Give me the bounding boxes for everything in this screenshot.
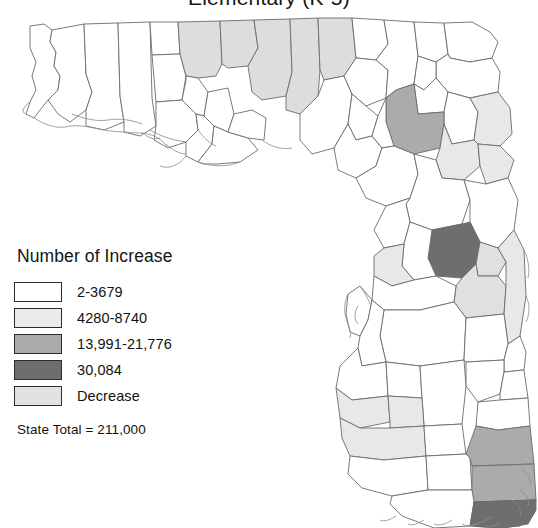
legend-item: 13,991-21,776: [14, 331, 229, 357]
legend-swatch-class-1: [14, 282, 62, 302]
page-title: Elementary (K-5): [0, 0, 538, 10]
county-osceola: [464, 314, 508, 362]
legend-item: 30,084: [14, 357, 229, 383]
county-miami-dade: [474, 500, 536, 528]
county-nassau: [444, 22, 498, 62]
county-holmes: [150, 22, 180, 55]
legend-item: Decrease: [14, 383, 229, 409]
legend-swatch-class-4: [14, 360, 62, 380]
county-glades: [424, 424, 466, 456]
state-total-label: State Total = 211,000: [17, 422, 229, 437]
legend-label-class-1: 2-3679: [77, 284, 123, 300]
county-collier: [390, 490, 474, 528]
county-okeechobee: [466, 360, 504, 402]
county-st-lucie: [500, 370, 528, 400]
county-flagler: [478, 144, 514, 184]
legend-swatch-class-3: [14, 334, 62, 354]
legend-swatch-class-decrease: [14, 386, 62, 406]
legend-label-class-decrease: Decrease: [77, 388, 140, 404]
legend-label-class-3: 13,991-21,776: [77, 336, 172, 352]
county-palm-beach: [466, 426, 534, 466]
county-desoto: [388, 396, 424, 428]
county-hendry: [426, 454, 472, 490]
legend-title: Number of Increase: [17, 246, 229, 267]
legend-label-class-4: 30,084: [77, 362, 122, 378]
county-washington: [152, 54, 186, 102]
map-legend: Number of Increase 2-3679 4280-8740 13,9…: [14, 246, 229, 437]
legend-swatch-class-2: [14, 308, 62, 328]
legend-item: 4280-8740: [14, 305, 229, 331]
county-martin: [476, 398, 530, 430]
legend-item: 2-3679: [14, 279, 229, 305]
county-lee: [348, 456, 428, 496]
county-hardee: [386, 362, 422, 398]
county-walton: [118, 22, 156, 136]
legend-label-class-2: 4280-8740: [77, 310, 147, 326]
county-jackson: [178, 21, 222, 78]
county-highlands: [420, 360, 466, 426]
county-polk: [380, 302, 466, 366]
